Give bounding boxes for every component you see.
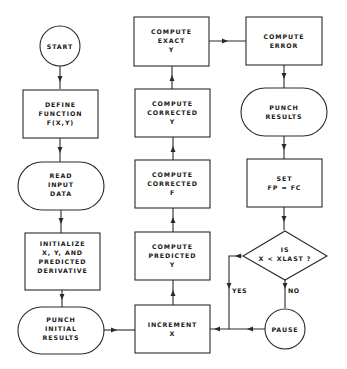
svg-text:PAUSE: PAUSE — [271, 326, 298, 333]
node-initialize: INITIALIZE X, Y, AND PREDICTED DERIVATIV… — [25, 233, 100, 290]
node-set-fp: SET FP = FC — [247, 159, 322, 207]
svg-text:X < XLAST ?: X < XLAST ? — [259, 255, 312, 262]
node-decision: IS X < XLAST ? — [243, 231, 327, 280]
arrow-head-icon — [214, 327, 220, 332]
arrow-head-icon — [60, 294, 65, 300]
svg-text:Y: Y — [169, 118, 175, 125]
node-punch-results: PUNCH RESULTS — [241, 88, 327, 136]
svg-text:START: START — [47, 43, 74, 50]
svg-text:INITIALIZE: INITIALIZE — [40, 240, 86, 247]
svg-text:EXACT: EXACT — [158, 37, 185, 44]
arrow-head-icon — [171, 290, 176, 296]
svg-text:INPUT: INPUT — [48, 181, 74, 188]
arrow-head-icon — [58, 76, 63, 82]
node-punch-initial-results: PUNCH INITIAL RESULTS — [18, 307, 104, 354]
svg-text:COMPUTE: COMPUTE — [151, 28, 192, 35]
svg-text:DEFINE: DEFINE — [45, 101, 76, 108]
flowchart-canvas: YES NO START DEFINE FUNCTION F(X,Y) READ… — [0, 0, 347, 369]
arrow-head-icon — [171, 217, 176, 223]
node-pause: PAUSE — [265, 309, 305, 349]
svg-text:PREDICTED: PREDICTED — [39, 258, 87, 265]
svg-text:DATA: DATA — [50, 190, 72, 197]
svg-text:F: F — [170, 189, 175, 196]
svg-text:RESULTS: RESULTS — [43, 334, 80, 341]
svg-text:Y: Y — [168, 46, 174, 53]
svg-text:Y: Y — [169, 261, 175, 268]
node-compute-corrected-f: COMPUTE CORRECTED F — [135, 160, 210, 208]
edge-label-yes: YES — [231, 287, 247, 294]
arrow-head-icon — [171, 146, 176, 152]
arrow-head-icon — [282, 73, 287, 79]
svg-text:CORRECTED: CORRECTED — [147, 180, 198, 187]
node-increment-x: INCREMENT X — [135, 305, 210, 353]
node-compute-exact-y: COMPUTE EXACT Y — [134, 17, 209, 66]
arrow-head-icon — [247, 327, 253, 332]
svg-text:PUNCH: PUNCH — [46, 316, 75, 323]
arrow-head-icon — [111, 328, 117, 333]
arrow-head-icon — [59, 218, 64, 224]
svg-text:FP = FC: FP = FC — [268, 184, 302, 191]
arrow-head-icon — [282, 216, 287, 222]
arrow-head-icon — [222, 39, 228, 44]
node-read-input: READ INPUT DATA — [18, 162, 104, 210]
svg-text:X: X — [170, 330, 176, 337]
svg-text:READ: READ — [50, 172, 73, 179]
svg-text:SET: SET — [277, 175, 293, 182]
svg-text:INITIAL: INITIAL — [45, 325, 77, 332]
arrow-head-icon — [283, 283, 288, 289]
svg-text:COMPUTE: COMPUTE — [152, 171, 193, 178]
svg-text:DERIVATIVE: DERIVATIVE — [37, 267, 87, 274]
svg-text:COMPUTE: COMPUTE — [152, 243, 193, 250]
svg-text:PUNCH: PUNCH — [269, 104, 298, 111]
node-compute-error: COMPUTE ERROR — [246, 17, 322, 65]
node-compute-predicted-y: COMPUTE PREDICTED Y — [135, 232, 210, 280]
arrow-head-icon — [170, 75, 175, 81]
svg-text:COMPUTE: COMPUTE — [152, 100, 193, 107]
arrow-head-icon — [58, 147, 63, 153]
svg-text:RESULTS: RESULTS — [266, 113, 303, 120]
svg-text:FUNCTION: FUNCTION — [39, 110, 83, 117]
arrow-head-icon — [282, 144, 287, 150]
edge-label-no: NO — [288, 287, 300, 294]
svg-text:F(X,Y): F(X,Y) — [47, 119, 74, 126]
svg-text:X, Y, AND: X, Y, AND — [42, 249, 83, 256]
svg-text:ERROR: ERROR — [270, 42, 299, 49]
node-define-function: DEFINE FUNCTION F(X,Y) — [23, 90, 98, 138]
svg-text:INCREMENT: INCREMENT — [148, 321, 198, 328]
svg-text:IS: IS — [281, 246, 290, 253]
node-start: START — [40, 26, 80, 66]
svg-text:COMPUTE: COMPUTE — [264, 33, 305, 40]
node-compute-corrected-y: COMPUTE CORRECTED Y — [135, 89, 210, 137]
svg-text:CORRECTED: CORRECTED — [147, 109, 198, 116]
arrow-head-icon — [227, 283, 232, 289]
arrow-head-icon — [235, 254, 241, 259]
svg-text:PREDICTED: PREDICTED — [149, 252, 197, 259]
